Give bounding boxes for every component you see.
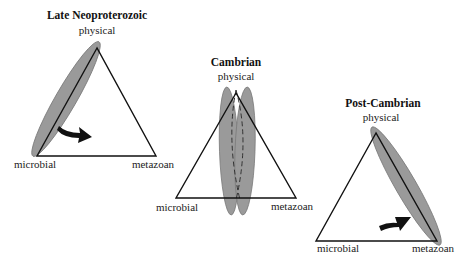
panel-late-neoproterozoic: Late Neoproterozoic physical microbial m… [14, 9, 175, 170]
panel-title: Post-Cambrian [345, 97, 421, 109]
vertex-label-right: metazoan [412, 242, 455, 254]
panel-post-cambrian: Post-Cambrian physical microbial metazoa… [316, 97, 455, 254]
vertex-label-left: microbial [14, 158, 56, 170]
vertex-label-left: microbial [156, 201, 198, 213]
arrow-icon [379, 217, 411, 231]
panel-cambrian: Cambrian physical microbial metazoan [156, 56, 314, 215]
panel-title: Late Neoproterozoic [47, 9, 147, 22]
vertex-label-top: physical [363, 111, 400, 123]
vertex-label-top: physical [79, 24, 116, 36]
field-ellipse [24, 37, 108, 162]
arrow-icon [57, 126, 92, 143]
vertex-label-top: physical [218, 70, 255, 82]
vertex-label-right: metazoan [132, 158, 175, 170]
ternary-diagrams: Late Neoproterozoic physical microbial m… [0, 0, 469, 266]
panel-title: Cambrian [211, 56, 262, 68]
vertex-label-left: microbial [317, 242, 359, 254]
vertex-label-right: metazoan [271, 200, 314, 212]
